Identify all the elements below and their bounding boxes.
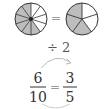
left-denominator: 10 <box>28 89 48 105</box>
fraction-equals-sign: = <box>50 80 60 94</box>
right-denominator: 5 <box>60 89 80 105</box>
top-arrow <box>41 58 70 68</box>
operation-label: ÷ 2 <box>47 40 70 55</box>
right-pie <box>66 3 98 35</box>
pie-equals-sign: = <box>51 11 61 25</box>
left-pie <box>15 3 47 35</box>
left-numerator: 6 <box>28 70 48 86</box>
right-numerator: 3 <box>60 70 80 86</box>
